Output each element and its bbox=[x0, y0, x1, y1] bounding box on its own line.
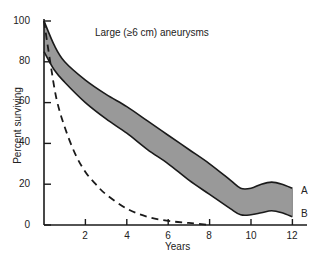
x-tick-12: 12 bbox=[282, 230, 302, 241]
y-tick-40: 40 bbox=[8, 136, 30, 147]
y-tick-60: 60 bbox=[8, 95, 30, 106]
series-label-b: B bbox=[301, 208, 308, 219]
series-label-a: A bbox=[301, 185, 308, 196]
y-tick-100: 100 bbox=[8, 15, 30, 26]
chart-title: Large (≥6 cm) aneurysms bbox=[95, 27, 209, 38]
x-tick-6: 6 bbox=[158, 230, 178, 241]
x-tick-2: 2 bbox=[75, 230, 95, 241]
x-tick-4: 4 bbox=[117, 230, 137, 241]
x-axis-label: Years bbox=[165, 241, 190, 252]
chart-plot-area bbox=[0, 0, 311, 261]
y-axis-label: Percent surviving bbox=[12, 81, 23, 171]
y-tick-0: 0 bbox=[8, 219, 30, 230]
x-tick-10: 10 bbox=[241, 230, 261, 241]
y-tick-80: 80 bbox=[8, 55, 30, 66]
x-tick-8: 8 bbox=[199, 230, 219, 241]
y-tick-20: 20 bbox=[8, 178, 30, 189]
